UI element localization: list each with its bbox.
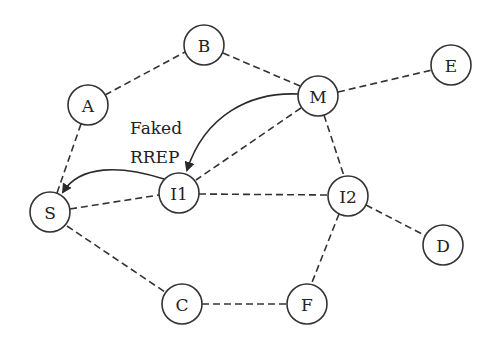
edge-s-i1 bbox=[70, 195, 159, 209]
node-s: S bbox=[30, 192, 70, 232]
edge-a-s bbox=[57, 124, 81, 193]
svg-text:S: S bbox=[44, 203, 56, 223]
svg-text:M: M bbox=[309, 87, 326, 107]
arrow-i1-to-s bbox=[63, 170, 164, 192]
node-m: M bbox=[298, 76, 338, 116]
diagram-svg: A B M E S I1 I2 D bbox=[0, 0, 494, 346]
edge-a-b bbox=[105, 52, 185, 95]
svg-text:D: D bbox=[436, 236, 450, 256]
node-a: A bbox=[68, 85, 108, 125]
node-i1: I1 bbox=[159, 173, 199, 213]
node-e: E bbox=[431, 45, 471, 85]
node-b: B bbox=[184, 25, 224, 65]
edges bbox=[57, 52, 432, 304]
edge-m-i2 bbox=[324, 115, 344, 176]
edge-s-c bbox=[67, 226, 165, 292]
svg-text:I1: I1 bbox=[170, 184, 188, 204]
node-c: C bbox=[162, 284, 202, 324]
node-i2: I2 bbox=[328, 176, 368, 216]
edge-b-m bbox=[223, 53, 300, 86]
svg-text:F: F bbox=[301, 295, 313, 315]
edge-m-i1 bbox=[196, 108, 301, 180]
svg-text:E: E bbox=[445, 56, 457, 76]
svg-text:C: C bbox=[175, 295, 188, 315]
node-d: D bbox=[423, 225, 463, 265]
network-diagram: A B M E S I1 I2 D bbox=[0, 0, 494, 346]
edge-i1-i2 bbox=[199, 194, 328, 195]
annotation-line-2: RREP bbox=[130, 143, 182, 172]
node-f: F bbox=[287, 284, 327, 324]
annotation-line-1: Faked bbox=[130, 114, 182, 143]
svg-text:A: A bbox=[81, 96, 95, 116]
arrow-m-to-i1 bbox=[187, 94, 298, 170]
edge-m-e bbox=[338, 70, 432, 92]
svg-text:I2: I2 bbox=[339, 187, 357, 207]
edge-i2-d bbox=[366, 205, 426, 236]
svg-text:B: B bbox=[198, 36, 211, 56]
edge-i2-f bbox=[311, 214, 339, 285]
faked-rrep-annotation: Faked RREP bbox=[130, 114, 182, 172]
